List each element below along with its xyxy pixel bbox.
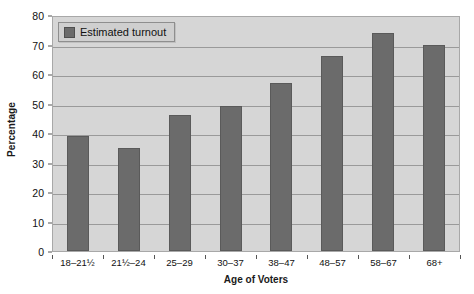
- x-axis-tick-mark: [205, 255, 206, 259]
- x-axis-tick-mark: [409, 255, 410, 259]
- x-axis-tick-label: 21½–24: [103, 255, 154, 273]
- bar-slot: [408, 17, 459, 251]
- x-axis-tick-label: 68+: [409, 255, 460, 273]
- x-axis-tick-mark: [52, 255, 53, 259]
- x-axis-tick-label: 30–37: [205, 255, 256, 273]
- x-axis-tick-label: 38–47: [256, 255, 307, 273]
- x-axis-tick-mark: [154, 255, 155, 259]
- y-axis-tick-40: 40: [32, 128, 44, 140]
- bar-slot: [104, 17, 155, 251]
- y-axis-tick-50: 50: [32, 99, 44, 111]
- bars-container: [53, 17, 459, 251]
- bar-25-29: [169, 115, 191, 251]
- y-axis-tick-60: 60: [32, 69, 44, 81]
- y-axis-title-text: Percentage: [6, 102, 17, 157]
- x-axis-tick-label: 25–29: [154, 255, 205, 273]
- y-axis-tick-70: 70: [32, 40, 44, 52]
- bar-58-67: [372, 33, 394, 251]
- y-axis-title: Percentage: [0, 0, 22, 258]
- bar-18-21-: [67, 136, 89, 251]
- y-axis-tick-labels: 80706050403020100: [22, 10, 48, 258]
- bar-slot: [307, 17, 358, 251]
- x-axis-tick-mark: [307, 255, 308, 259]
- x-axis-tick-labels: 18–21½21½–2425–2930–3738–4748–5758–6768+: [52, 255, 460, 273]
- bar-slot: [256, 17, 307, 251]
- bar-21--24: [118, 148, 140, 251]
- x-axis-tick-mark: [103, 255, 104, 259]
- y-axis-tick-20: 20: [32, 187, 44, 199]
- legend-swatch-estimated-turnout: [64, 27, 75, 38]
- x-axis-tick-mark: [256, 255, 257, 259]
- chart-legend: Estimated turnout: [58, 22, 175, 42]
- y-axis-tick-10: 10: [32, 217, 44, 229]
- bar-48-57: [321, 56, 343, 251]
- bar-slot: [205, 17, 256, 251]
- x-axis-tick-mark: [460, 255, 461, 259]
- y-axis-tick-0: 0: [38, 246, 44, 258]
- bar-slot: [358, 17, 409, 251]
- plot-area: [52, 16, 460, 252]
- x-axis-tick-label: 18–21½: [52, 255, 103, 273]
- x-axis-tick-mark: [358, 255, 359, 259]
- x-axis-title: Age of Voters: [52, 274, 460, 285]
- x-axis-tick-label: 48–57: [307, 255, 358, 273]
- bar-chart: Percentage 80706050403020100 Estimated t…: [0, 0, 474, 294]
- bar-slot: [155, 17, 206, 251]
- bar-68+: [423, 45, 445, 252]
- y-axis-tick-30: 30: [32, 158, 44, 170]
- y-axis-tick-80: 80: [32, 10, 44, 22]
- legend-label-estimated-turnout: Estimated turnout: [80, 26, 166, 38]
- bar-slot: [53, 17, 104, 251]
- bar-30-37: [220, 106, 242, 251]
- x-axis-tick-label: 58–67: [358, 255, 409, 273]
- bar-38-47: [270, 83, 292, 251]
